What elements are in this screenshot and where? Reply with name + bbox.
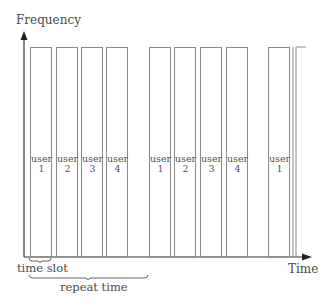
- user-number: 4: [227, 164, 249, 174]
- user-number: 4: [107, 164, 129, 174]
- slot-user-label: user4: [227, 154, 249, 174]
- user-number: 2: [175, 164, 197, 174]
- slot-user-label: user3: [82, 154, 104, 174]
- slot-user-label: user2: [175, 154, 197, 174]
- user-number: 3: [82, 164, 104, 174]
- x-axis-arrow-icon: [302, 254, 312, 261]
- y-axis-arrow-icon: [21, 31, 28, 40]
- slot-user-label: user3: [201, 154, 223, 174]
- slot-user-label: user1: [31, 154, 53, 174]
- x-axis-label: Time: [288, 263, 318, 275]
- slot-user-label: user1: [269, 154, 291, 174]
- repeat-time-label: repeat time: [60, 282, 128, 294]
- partial-slot-bar: [296, 47, 306, 257]
- user-number: 1: [31, 164, 53, 174]
- time-slot-label: time slot: [17, 263, 68, 275]
- slot-user-label: user1: [150, 154, 172, 174]
- slot-user-label: user4: [107, 154, 129, 174]
- user-number: 1: [150, 164, 172, 174]
- slot-user-label: user2: [57, 154, 79, 174]
- user-number: 3: [201, 164, 223, 174]
- user-number: 1: [269, 164, 291, 174]
- y-axis-label: Frequency: [16, 14, 81, 26]
- user-number: 2: [57, 164, 79, 174]
